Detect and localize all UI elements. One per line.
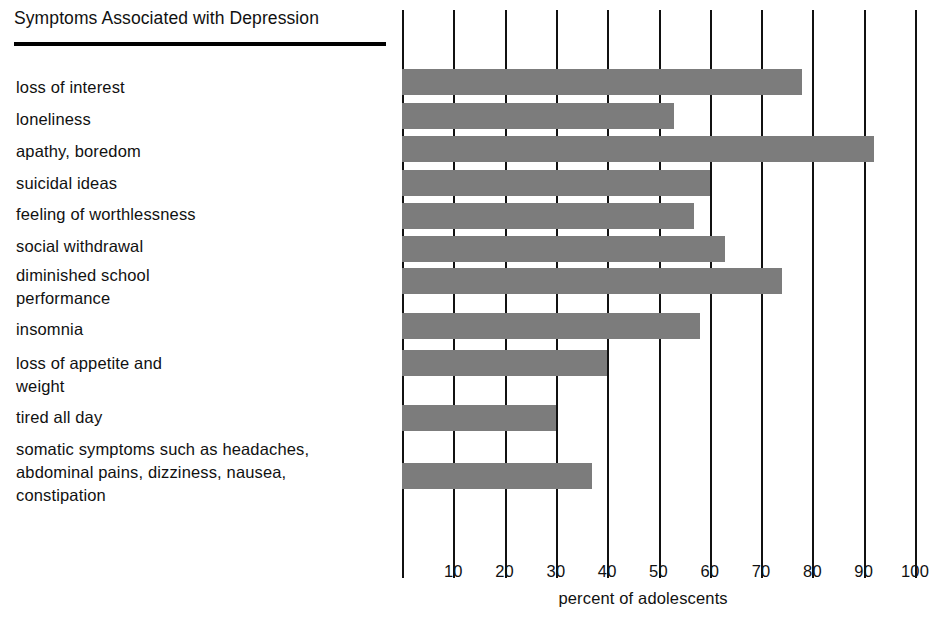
bar [402,170,710,196]
bar [402,136,874,162]
bar [402,313,700,339]
x-axis-tick-label: 20 [483,562,527,581]
x-axis-tick-label: 70 [739,562,783,581]
x-axis-tick-label: 40 [585,562,629,581]
x-axis-tick [402,556,404,578]
bar [402,203,694,229]
bar [402,463,592,489]
x-gridline [915,10,917,556]
bar [402,350,607,376]
x-axis-tick-label: 100 [893,562,937,581]
x-axis-tick-label: 80 [790,562,834,581]
depression-symptoms-bar-chart: Symptoms Associated with Depression loss… [0,0,943,617]
bar [402,69,802,95]
bar [402,268,782,294]
bar [402,405,556,431]
bar [402,236,725,262]
x-axis-tick-label: 60 [688,562,732,581]
x-axis-tick-label: 90 [842,562,886,581]
x-axis-tick-label: 10 [431,562,475,581]
x-axis-tick-label: 50 [637,562,681,581]
x-gridline [812,10,814,556]
plot-area: 102030405060708090100 [0,0,943,617]
x-gridline [864,10,866,556]
bar [402,103,674,129]
x-axis-tick-label: 30 [534,562,578,581]
x-axis-title: percent of adolescents [558,589,727,608]
